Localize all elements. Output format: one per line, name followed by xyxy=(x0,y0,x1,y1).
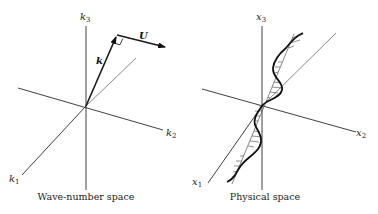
wave-hatching xyxy=(232,34,303,177)
k1-axis-extension xyxy=(86,58,136,106)
figure: k3 k2 k1 k U Wave-number space xyxy=(0,0,378,214)
wave-number-space-panel: k3 k2 k1 k U Wave-number space xyxy=(9,11,177,202)
wave-propagation-line xyxy=(232,34,294,184)
physical-space-panel: x3 x2 x1 Physical space xyxy=(192,11,366,202)
x3-label: x3 xyxy=(256,11,266,24)
k2-label: k2 xyxy=(166,127,177,140)
k3-label: k3 xyxy=(80,11,91,24)
x2-label: x2 xyxy=(356,127,366,140)
k-vector-label: k xyxy=(96,55,103,66)
wave-number-space-caption: Wave-number space xyxy=(38,191,135,202)
x1-label: x1 xyxy=(192,176,202,189)
k1-axis xyxy=(22,106,86,175)
physical-space-caption: Physical space xyxy=(230,191,301,202)
k-vector xyxy=(86,37,116,106)
u-vector-label: U xyxy=(139,30,149,41)
physical-wave-curve xyxy=(227,33,303,182)
k1-label: k1 xyxy=(9,173,20,186)
